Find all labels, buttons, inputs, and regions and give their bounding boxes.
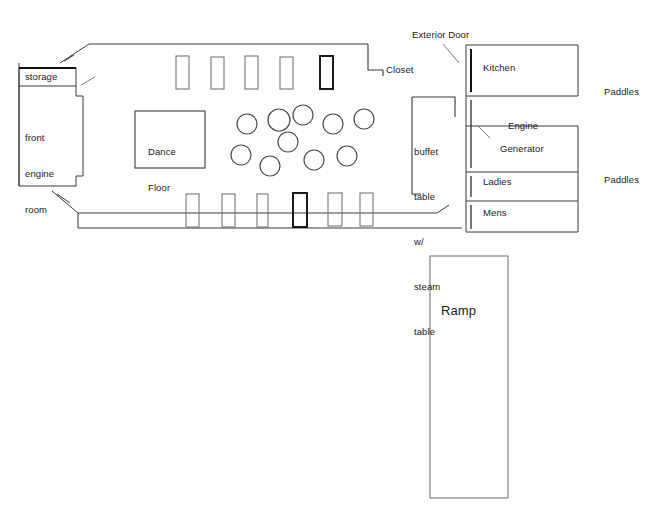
- round-table-9: [304, 150, 324, 170]
- room-label-closet: Closet: [386, 64, 414, 76]
- round-table-2: [268, 109, 290, 131]
- buffet-line-2: table: [414, 189, 440, 204]
- round-table-8: [260, 156, 280, 176]
- front-engine-room-line-1: front: [25, 132, 54, 144]
- room-label-ramp: Ramp: [441, 303, 476, 319]
- room-label-kitchen: Kitchen: [483, 62, 515, 74]
- seat-rectangle-top-3: [245, 56, 258, 89]
- front-engine-room-line-2: engine: [25, 168, 54, 180]
- seat-rectangle-bottom-5: [328, 193, 342, 226]
- seat-rectangle-top-1: [176, 56, 189, 89]
- room-label-generator: Generator: [500, 143, 544, 155]
- seat-rectangle-bottom-2: [222, 194, 235, 227]
- seat-rectangle-bottom-4: [293, 193, 307, 227]
- buffet-line-1: buffet: [414, 144, 440, 159]
- room-label-mens: Mens: [483, 207, 507, 219]
- furniture-layer: [176, 56, 374, 227]
- seat-rectangle-bottom-3: [257, 194, 268, 227]
- dance-floor-line-1: Dance: [148, 146, 176, 158]
- storage-leader-line: [81, 77, 95, 85]
- buffet-line-3: w/: [414, 234, 440, 249]
- buffet-line-5: table: [414, 324, 440, 339]
- annotation-exterior-door: Exterior Door: [412, 29, 469, 41]
- round-table-6: [278, 132, 298, 152]
- floor-plan-drawing: [0, 0, 666, 516]
- round-table-3: [293, 105, 313, 125]
- seat-rectangle-top-2: [211, 57, 224, 89]
- room-label-ladies: Ladies: [483, 176, 512, 188]
- annotation-paddles-upper: Paddles: [604, 86, 639, 98]
- round-table-5: [354, 109, 374, 129]
- exterior-door-leader-line: [443, 44, 459, 63]
- room-label-dance-floor: Dance Floor: [148, 122, 176, 218]
- seat-rectangle-bottom-6: [360, 193, 373, 226]
- round-table-4: [323, 114, 343, 134]
- room-label-engine: Engine: [508, 120, 538, 132]
- floor-plan-canvas: storage front engine room Dance Floor bu…: [0, 0, 666, 516]
- round-table-10: [337, 146, 357, 166]
- closet-shape: [368, 44, 383, 76]
- round-table-7: [231, 145, 251, 165]
- seat-rectangle-top-5: [320, 56, 333, 89]
- buffet-line-4: steam: [414, 279, 440, 294]
- seat-rectangle-top-4: [280, 57, 293, 89]
- room-label-storage: storage: [25, 71, 57, 83]
- seat-rectangle-bottom-1: [186, 194, 199, 227]
- ramp-shape: [430, 256, 508, 498]
- dance-floor-line-2: Floor: [148, 182, 176, 194]
- annotation-paddles-lower: Paddles: [604, 174, 639, 186]
- round-table-1: [237, 114, 257, 134]
- room-label-front-engine-room: front engine room: [25, 108, 54, 240]
- front-engine-room-line-3: room: [25, 204, 54, 216]
- room-label-buffet-table: buffet table w/ steam table: [414, 114, 440, 369]
